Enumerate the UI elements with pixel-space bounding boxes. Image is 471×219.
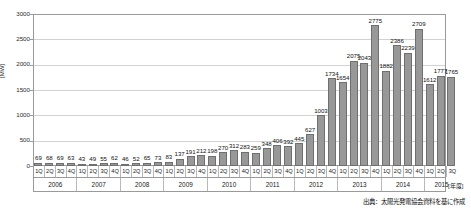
x-axis-quarter-label: 2Q (88, 166, 99, 177)
bar-slot: 2386 (392, 14, 403, 166)
bar (219, 152, 227, 166)
bar (197, 155, 205, 166)
x-axis-quarter-label: 2Q (262, 166, 273, 177)
bar-slot: 2239 (403, 14, 414, 166)
y-axis: 050010001500200025003000 (0, 0, 33, 219)
bar (426, 84, 434, 166)
x-axis-quarter-label: 1Q (164, 166, 175, 177)
x-axis-quarter-label: 3Q (404, 166, 415, 177)
bar-slot: 49 (87, 14, 98, 166)
y-axis-tick-label: 1500 (16, 87, 30, 93)
y-axis-tick-label: 2000 (16, 61, 30, 67)
bar-slot: 2775 (370, 14, 381, 166)
x-axis-quarter-label: 4Q (241, 166, 252, 177)
bar (350, 61, 358, 166)
x-axis-year-label: 2006 (34, 178, 77, 191)
x-axis-quarter-label: 4Q (110, 166, 121, 177)
y-axis-tick-label: 500 (20, 137, 30, 143)
bar (284, 146, 292, 166)
x-axis-quarter-label: 1Q (338, 166, 349, 177)
x-axis-year-row: 2006200720082009201020112012201320142015 (33, 178, 446, 192)
bar-slot: 2075 (348, 14, 359, 166)
x-axis-quarter-label: 4Q (327, 166, 338, 177)
x-axis-quarter-label: 2Q (393, 166, 404, 177)
bar-value-label: 1765 (438, 69, 464, 75)
bar (404, 53, 412, 166)
bar-slot: 445 (294, 14, 305, 166)
x-axis-year-label: 2013 (338, 178, 381, 191)
bar (176, 159, 184, 166)
y-axis-tick-label: 1000 (16, 112, 30, 118)
y-axis-tick-label: 2500 (16, 36, 30, 42)
x-axis-quarter-label: 3Q (447, 166, 458, 177)
bar (263, 148, 271, 166)
x-axis-quarter-label: 2Q (306, 166, 317, 177)
bar-series: 6968696343495562465265738313719121219827… (33, 14, 446, 166)
x-axis-quarter-label: 3Q (360, 166, 371, 177)
x-axis-quarter-label: 3Q (230, 166, 241, 177)
bar-slot: 73 (153, 14, 164, 166)
x-axis-quarter-label: 2Q (45, 166, 56, 177)
bar (252, 153, 260, 166)
x-axis-quarter-label: 1Q (77, 166, 88, 177)
bar (241, 152, 249, 166)
bar (447, 77, 455, 166)
x-axis-year-label: 2008 (121, 178, 164, 191)
bar (371, 25, 379, 166)
x-axis-quarter-label: 3Q (143, 166, 154, 177)
bar-slot: 1003 (316, 14, 327, 166)
x-axis-quarter-label: 1Q (382, 166, 393, 177)
x-axis-year-label: 2009 (164, 178, 207, 191)
bar-slot: 69 (33, 14, 44, 166)
bar-slot: 198 (207, 14, 218, 166)
x-axis-quarter-label: 2Q (436, 166, 447, 177)
x-axis-year-label: 2014 (382, 178, 425, 191)
bar (360, 63, 368, 167)
x-axis-quarter-label: 2Q (175, 166, 186, 177)
bar-slot: 283 (240, 14, 251, 166)
bar (295, 143, 303, 166)
bar-slot: 46 (120, 14, 131, 166)
bar (317, 115, 325, 166)
x-axis-year-label: 2007 (77, 178, 120, 191)
bar (273, 145, 281, 166)
bar-slot: 212 (196, 14, 207, 166)
bar-slot: 65 (142, 14, 153, 166)
bar (328, 78, 336, 166)
bar-slot: 43 (76, 14, 87, 166)
x-axis-quarter-label: 2Q (219, 166, 230, 177)
solar-installation-bar-chart: 050010001500200025003000 [MW] 6968696343… (0, 0, 471, 219)
x-axis-year-label: 2012 (295, 178, 338, 191)
bar-slot: 62 (109, 14, 120, 166)
x-axis-quarter-label: 3Q (186, 166, 197, 177)
bar (230, 150, 238, 166)
bar-slot: 52 (131, 14, 142, 166)
bar (382, 71, 390, 166)
x-axis-quarter-label: 3Q (99, 166, 110, 177)
bar-slot: 1777 (435, 14, 446, 166)
bar-slot: 137 (174, 14, 185, 166)
x-axis-quarter-label: 1Q (208, 166, 219, 177)
y-axis-tick-label: 3000 (16, 11, 30, 17)
x-axis-quarter-label: 4Q (371, 166, 382, 177)
bar-slot: 392 (283, 14, 294, 166)
bar-slot: 1612 (424, 14, 435, 166)
x-axis-quarter-label: 1Q (251, 166, 262, 177)
bar-slot: 83 (163, 14, 174, 166)
x-axis-quarter-label: 1Q (121, 166, 132, 177)
x-axis-quarter-label: 4Q (284, 166, 295, 177)
x-axis-quarter-label: 3Q (317, 166, 328, 177)
bar-slot: 1734 (326, 14, 337, 166)
source-note: 出典：太陽光発電協会資料を基に作成 (0, 197, 465, 206)
x-axis-quarter-label: 4Q (154, 166, 165, 177)
bar (208, 156, 216, 166)
x-axis-quarter-row: 1Q2Q3Q4Q1Q2Q3Q4Q1Q2Q3Q4Q1Q2Q3Q4Q1Q2Q3Q4Q… (33, 166, 446, 178)
y-axis-title: [MW] (0, 64, 5, 78)
bar-slot: 55 (98, 14, 109, 166)
x-axis-quarter-label: 1Q (425, 166, 436, 177)
bar (339, 82, 347, 166)
bar-slot: 1765 (446, 14, 457, 166)
bar-slot: 2043 (359, 14, 370, 166)
bar (437, 76, 445, 166)
bar (306, 134, 314, 166)
